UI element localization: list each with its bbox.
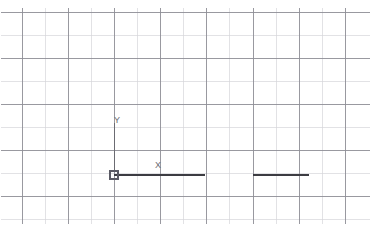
- ucs-icon: [110, 123, 118, 179]
- y-axis-label: Y: [114, 116, 120, 125]
- ucs-icon-layer: [0, 0, 370, 234]
- ucs-origin-square[interactable]: [110, 171, 118, 179]
- x-axis-label: X: [155, 161, 161, 170]
- drawing-canvas[interactable]: Y X: [0, 0, 370, 234]
- cad-application-window: Y X: [0, 0, 370, 234]
